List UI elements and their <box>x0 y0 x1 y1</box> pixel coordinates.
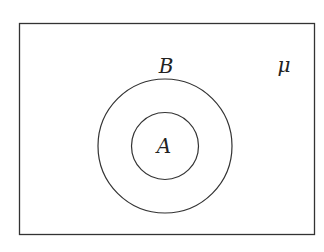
venn-diagram: B A μ <box>0 0 324 252</box>
set-b-label: B <box>158 54 174 78</box>
universe-label: μ <box>278 53 291 77</box>
set-a-label: A <box>155 134 171 158</box>
